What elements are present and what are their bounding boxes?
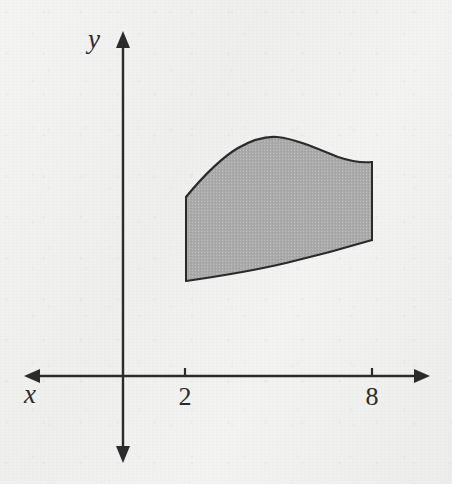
x-axis-right-arrowhead <box>414 369 430 383</box>
region-halftone-texture <box>180 130 380 290</box>
x-tick-label-2: 2 <box>168 384 202 410</box>
x-axis-label: x <box>24 381 36 408</box>
figure-canvas: y x 2 8 <box>0 0 452 484</box>
y-axis-label: y <box>88 26 100 53</box>
x-tick-label-8: 8 <box>355 384 389 410</box>
coordinate-plane-figure <box>0 0 452 484</box>
y-axis-bottom-arrowhead <box>116 446 130 463</box>
y-axis-top-arrowhead <box>116 31 130 48</box>
